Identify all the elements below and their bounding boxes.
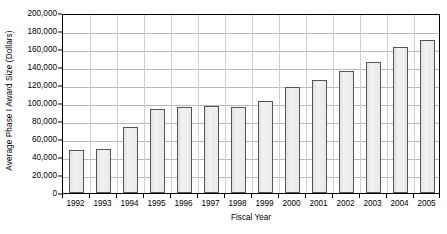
x-axis-tick-mark (332, 194, 333, 198)
x-axis-tick-mark (197, 194, 198, 198)
x-axis-tick-label: 2001 (309, 199, 327, 209)
bar (285, 87, 301, 193)
x-axis-tick-mark (359, 194, 360, 198)
x-axis-tick-mark (224, 194, 225, 198)
y-axis-tick-label: 120,000 (27, 82, 57, 90)
x-axis-tick-label: 1992 (66, 199, 84, 209)
x-axis-tick-mark (386, 194, 387, 198)
x-axis-tick-mark (439, 194, 440, 198)
bar (258, 101, 274, 193)
x-axis-tick-label: 1997 (201, 199, 219, 209)
y-axis-tick-label: 160,000 (27, 46, 57, 54)
x-axis-tick-label: 1996 (174, 199, 192, 209)
y-axis-tick-label: 60,000 (32, 136, 57, 144)
bar (177, 107, 193, 193)
y-axis-tick-label: 20,000 (32, 172, 57, 180)
y-axis-tick-label: 40,000 (32, 154, 57, 162)
bar (393, 47, 409, 193)
x-axis-tick-label: 1993 (93, 199, 111, 209)
bar (420, 40, 436, 193)
x-axis-title: Fiscal Year (62, 213, 440, 222)
x-axis-tick-label: 1999 (255, 199, 273, 209)
bar-chart: Average Phase I Award Size (Dollars) 020… (0, 0, 447, 234)
plot-area (62, 14, 440, 194)
y-axis-title-label: Average Phase I Award Size (Dollars) (5, 30, 14, 170)
x-axis-tick-mark (305, 194, 306, 198)
x-axis-tick-label: 2005 (417, 199, 435, 209)
x-axis-tick-mark (116, 194, 117, 198)
bar (69, 150, 85, 193)
x-axis-tick-mark (62, 194, 63, 198)
x-axis-tick-label: 2004 (390, 199, 408, 209)
bar (96, 149, 112, 193)
x-axis-tick-mark (143, 194, 144, 198)
x-axis-tick-label: 1998 (228, 199, 246, 209)
bar (204, 106, 220, 193)
x-axis-tick-mark (413, 194, 414, 198)
y-axis-tick-labels: 020,00040,00060,00080,000100,000120,0001… (18, 14, 62, 194)
x-axis-tick-label: 2000 (282, 199, 300, 209)
bar (150, 109, 166, 193)
bar (339, 71, 355, 193)
bars-layer (63, 15, 439, 193)
y-axis-tick-label: 80,000 (32, 118, 57, 126)
y-axis-tick-label: 180,000 (27, 28, 57, 36)
bar (231, 107, 247, 193)
x-axis-tick-marks (62, 194, 440, 198)
y-axis-tick-label: 200,000 (27, 10, 57, 18)
x-axis-tick-label: 1995 (147, 199, 165, 209)
x-axis-tick-label: 2003 (363, 199, 381, 209)
x-axis-tick-labels: 1992199319941995199619971998199920002001… (62, 199, 440, 211)
x-axis-tick-mark (278, 194, 279, 198)
x-axis-tick-mark (170, 194, 171, 198)
bar (366, 62, 382, 193)
y-axis-tick-label: 0 (52, 190, 57, 198)
bar (312, 80, 328, 193)
y-axis-title: Average Phase I Award Size (Dollars) (0, 0, 18, 200)
y-axis-tick-label: 140,000 (27, 64, 57, 72)
bar (123, 127, 139, 193)
x-axis-tick-label: 2002 (336, 199, 354, 209)
x-axis-tick-mark (89, 194, 90, 198)
x-axis-tick-mark (251, 194, 252, 198)
x-axis-tick-label: 1994 (120, 199, 138, 209)
y-axis-tick-label: 100,000 (27, 100, 57, 108)
